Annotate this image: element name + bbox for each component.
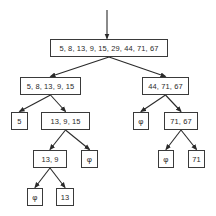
tree-node: 5 (11, 112, 28, 130)
edge-arrow (166, 130, 181, 150)
tree-node: 71 (188, 150, 205, 168)
tree-node: 5, 8, 13, 9, 15 (20, 77, 81, 95)
empty-set-node: φ (27, 188, 43, 206)
tree-node: 13, 9, 15 (41, 112, 90, 130)
tree-node: 13 (56, 188, 74, 206)
edge-arrow (109, 57, 166, 77)
empty-set-node: φ (81, 150, 98, 168)
edge-arrow (50, 130, 66, 150)
edges-layer (0, 0, 216, 216)
edge-arrow (35, 168, 50, 188)
edge-arrow (50, 168, 65, 188)
edge-arrow (20, 95, 51, 112)
empty-set-node: φ (158, 150, 174, 168)
tree-node: 5, 8, 13, 9, 15, 29, 44, 71, 67 (50, 39, 168, 57)
edge-arrow (181, 130, 197, 150)
tree-node: 71, 67 (164, 112, 198, 130)
edge-arrow (66, 130, 90, 150)
tree-node: 44, 71, 67 (142, 77, 189, 95)
edge-arrow (166, 95, 182, 112)
empty-set-node: φ (133, 112, 149, 130)
edge-arrow (51, 95, 66, 112)
edge-arrow (51, 57, 110, 77)
tree-node: 13, 9 (33, 150, 67, 168)
edge-arrow (141, 95, 166, 112)
